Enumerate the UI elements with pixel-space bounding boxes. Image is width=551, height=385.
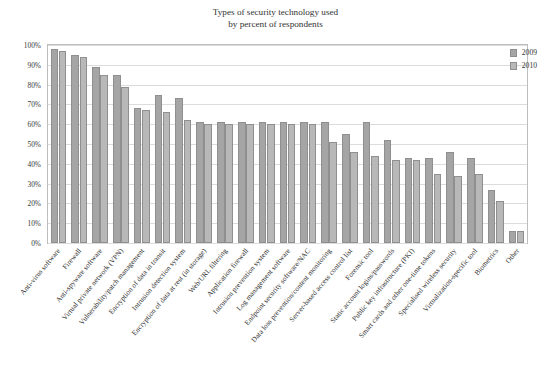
bar-group xyxy=(425,45,441,243)
bar-2010 xyxy=(288,124,296,243)
bar-2009 xyxy=(488,190,496,243)
bar-2010 xyxy=(475,174,483,243)
bar-group xyxy=(446,45,462,243)
bar-2010 xyxy=(142,110,150,243)
y-axis-tick-label: 50% xyxy=(27,140,41,149)
y-axis-tick-label: 80% xyxy=(27,80,41,89)
legend-item-2010: 2010 xyxy=(510,59,537,72)
chart-title-line-1: Types of security technology used xyxy=(0,6,551,18)
bar-2009 xyxy=(51,49,59,243)
bar-2009 xyxy=(134,108,142,243)
y-axis-tick-label: 70% xyxy=(27,100,41,109)
bar-group xyxy=(175,45,191,243)
bar-2010 xyxy=(204,124,212,243)
bar-2009 xyxy=(342,134,350,243)
bar-group xyxy=(238,45,254,243)
legend-label-2009: 2009 xyxy=(522,48,537,57)
bar-2010 xyxy=(350,152,358,243)
legend-item-2009: 2009 xyxy=(510,46,537,59)
bar-2010 xyxy=(225,124,233,243)
bar-2010 xyxy=(100,75,108,243)
y-axis-tick-label: 30% xyxy=(27,179,41,188)
bar-2009 xyxy=(467,158,475,243)
bar-2010 xyxy=(413,160,421,243)
bar-2010 xyxy=(309,124,317,243)
bar-group xyxy=(134,45,150,243)
bar-2010 xyxy=(496,201,504,243)
bar-group xyxy=(51,45,67,243)
bar-group xyxy=(71,45,87,243)
bar-2010 xyxy=(392,160,400,243)
bar-2009 xyxy=(217,122,225,243)
bar-2010 xyxy=(184,120,192,243)
bar-2009 xyxy=(446,152,454,243)
y-axis: 100%90%80%70%60%50%40%30%20%10%0% xyxy=(0,44,45,244)
legend-label-2010: 2010 xyxy=(522,61,537,70)
bar-2009 xyxy=(155,95,163,244)
bar-2010 xyxy=(80,57,88,243)
y-axis-tick-label: 90% xyxy=(27,60,41,69)
chart-title-line-2: by percent of respondents xyxy=(0,18,551,30)
bar-2009 xyxy=(196,122,204,243)
bar-series-container xyxy=(48,45,527,243)
bar-2009 xyxy=(363,122,371,243)
bar-2009 xyxy=(405,158,413,243)
bar-group xyxy=(363,45,379,243)
bar-group xyxy=(405,45,421,243)
bar-group xyxy=(217,45,233,243)
y-axis-tick-label: 60% xyxy=(27,120,41,129)
bar-2010 xyxy=(163,112,171,243)
chart-legend: 2009 2010 xyxy=(510,46,537,72)
bar-2009 xyxy=(238,122,246,243)
legend-swatch-2010-icon xyxy=(510,62,517,70)
bar-group xyxy=(196,45,212,243)
bar-group xyxy=(113,45,129,243)
y-axis-tick-label: 20% xyxy=(27,199,41,208)
bar-2010 xyxy=(434,174,442,243)
y-axis-tick-label: 100% xyxy=(24,41,41,50)
bar-2009 xyxy=(259,122,267,243)
bar-2009 xyxy=(321,122,329,243)
x-axis-labels: Anti-virus softwareFirewallAnti-spyware … xyxy=(0,244,551,364)
bar-2010 xyxy=(371,156,379,243)
bar-2010 xyxy=(59,51,67,243)
bar-group xyxy=(467,45,483,243)
bar-group xyxy=(92,45,108,243)
bar-2009 xyxy=(113,75,121,243)
y-axis-tick-label: 10% xyxy=(27,219,41,228)
bar-group xyxy=(509,45,525,243)
bar-2009 xyxy=(425,158,433,243)
x-axis-tick-label: Anti-virus software xyxy=(19,247,62,297)
bar-2009 xyxy=(300,122,308,243)
bar-group xyxy=(280,45,296,243)
y-axis-tick-label: 40% xyxy=(27,159,41,168)
bar-group xyxy=(155,45,171,243)
bar-2009 xyxy=(384,140,392,243)
bar-2009 xyxy=(280,122,288,243)
bar-group xyxy=(259,45,275,243)
bar-group xyxy=(321,45,337,243)
bar-2009 xyxy=(71,55,79,243)
bar-2009 xyxy=(175,98,183,243)
legend-swatch-2009-icon xyxy=(510,49,517,57)
bar-2010 xyxy=(329,142,337,243)
bar-group xyxy=(384,45,400,243)
x-axis-tick-label: Other xyxy=(504,247,521,265)
bar-2010 xyxy=(121,87,129,243)
bar-group xyxy=(300,45,316,243)
chart-title: Types of security technology used by per… xyxy=(0,6,551,30)
bar-2010 xyxy=(267,124,275,243)
bar-group xyxy=(488,45,504,243)
bar-2010 xyxy=(246,124,254,243)
bar-2009 xyxy=(92,67,100,243)
bar-2010 xyxy=(517,231,525,243)
bar-group xyxy=(342,45,358,243)
chart-root: Types of security technology used by per… xyxy=(0,0,551,385)
bar-2009 xyxy=(509,231,517,243)
bar-2010 xyxy=(454,176,462,243)
